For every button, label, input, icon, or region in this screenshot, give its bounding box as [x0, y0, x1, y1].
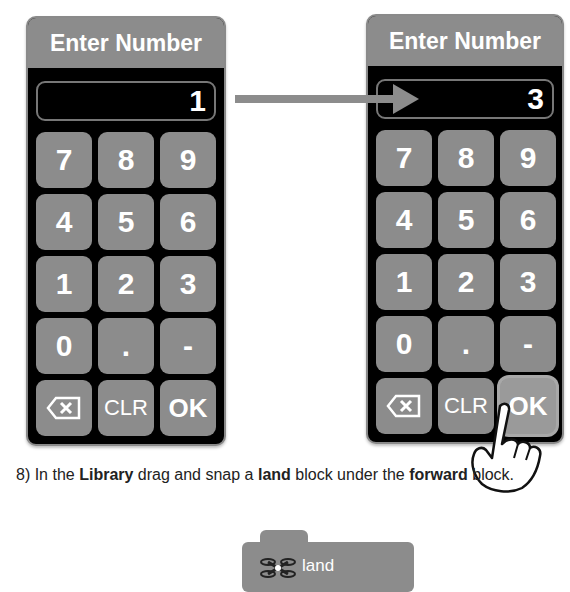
key-0[interactable]: 0: [376, 316, 432, 372]
number-display[interactable]: 1: [36, 81, 216, 121]
key-1[interactable]: 1: [376, 254, 432, 310]
arrow-right-icon: [393, 84, 419, 114]
key-1[interactable]: 1: [36, 256, 92, 312]
key-9[interactable]: 9: [500, 130, 556, 186]
ok-button[interactable]: OK: [160, 380, 216, 436]
backspace-button[interactable]: [36, 380, 92, 436]
instruction-text: 8) In the Library drag and snap a land b…: [16, 466, 514, 484]
key-7[interactable]: 7: [376, 130, 432, 186]
drone-icon: [260, 556, 296, 580]
key-5[interactable]: 5: [98, 194, 154, 250]
clear-button[interactable]: CLR: [98, 380, 154, 436]
backspace-button[interactable]: [376, 378, 432, 434]
library-term: Library: [79, 466, 133, 483]
keypad: 7 8 9 4 5 6 1 2 3 0 . - CLR OK: [376, 130, 556, 434]
key-8[interactable]: 8: [438, 130, 494, 186]
arrow-shaft: [360, 95, 394, 103]
number-dialog-left: Enter Number 1 7 8 9 4 5 6 1 2 3 0 . - C…: [26, 16, 226, 446]
key-6[interactable]: 6: [160, 194, 216, 250]
key-2[interactable]: 2: [438, 254, 494, 310]
key-8[interactable]: 8: [98, 132, 154, 188]
land-block[interactable]: land: [242, 542, 414, 592]
key-7[interactable]: 7: [36, 132, 92, 188]
key-minus[interactable]: -: [160, 318, 216, 374]
backspace-icon: [46, 396, 82, 420]
key-0[interactable]: 0: [36, 318, 92, 374]
key-minus[interactable]: -: [500, 316, 556, 372]
key-6[interactable]: 6: [500, 192, 556, 248]
number-dialog-right: Enter Number 3 7 8 9 4 5 6 1 2 3 0 . - C…: [366, 14, 564, 444]
key-4[interactable]: 4: [36, 194, 92, 250]
key-3[interactable]: 3: [500, 254, 556, 310]
key-5[interactable]: 5: [438, 192, 494, 248]
keypad: 7 8 9 4 5 6 1 2 3 0 . - CLR OK: [36, 132, 216, 436]
key-2[interactable]: 2: [98, 256, 154, 312]
land-term: land: [258, 466, 291, 483]
backspace-icon: [386, 394, 422, 418]
key-3[interactable]: 3: [160, 256, 216, 312]
block-label: land: [302, 556, 334, 576]
key-decimal[interactable]: .: [98, 318, 154, 374]
key-decimal[interactable]: .: [438, 316, 494, 372]
key-9[interactable]: 9: [160, 132, 216, 188]
block-tab: [260, 530, 308, 546]
forward-term: forward: [409, 466, 468, 483]
dialog-title: Enter Number: [368, 16, 562, 66]
key-4[interactable]: 4: [376, 192, 432, 248]
arrow-shaft: [235, 95, 360, 103]
dialog-title: Enter Number: [28, 18, 224, 68]
